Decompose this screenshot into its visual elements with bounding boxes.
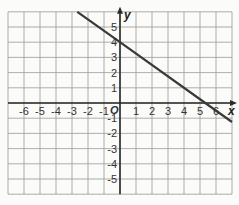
origin-label: O	[110, 104, 119, 116]
y-tick-label: -5	[107, 173, 117, 185]
y-tick-label: -2	[107, 127, 117, 139]
x-tick-label: -2	[83, 105, 93, 117]
y-axis-label: y	[123, 8, 132, 22]
x-tick-label: 6	[213, 105, 219, 117]
y-tick-label: 1	[111, 82, 117, 94]
x-tick-label: 1	[133, 105, 139, 117]
y-tick-label: 4	[111, 36, 117, 48]
y-tick-label: 5	[111, 21, 117, 33]
x-tick-label: -6	[19, 105, 29, 117]
x-tick-label: 3	[165, 105, 171, 117]
y-tick-label: -3	[107, 143, 117, 155]
y-tick-label: 2	[111, 67, 117, 79]
x-tick-label: -3	[67, 105, 77, 117]
y-axis-arrow-icon	[117, 7, 123, 14]
coordinate-plane: -6-5-4-3-2-112345654321-1-2-3-4-5 x y O	[0, 0, 239, 205]
y-tick-label: -4	[107, 158, 117, 170]
y-tick-label: 3	[111, 51, 117, 63]
x-tick-label: -5	[35, 105, 45, 117]
x-axis-label: x	[227, 104, 236, 118]
x-tick-label: 4	[181, 105, 187, 117]
x-tick-label: 2	[149, 105, 155, 117]
x-tick-label: -4	[51, 105, 61, 117]
x-tick-label: 5	[197, 105, 203, 117]
